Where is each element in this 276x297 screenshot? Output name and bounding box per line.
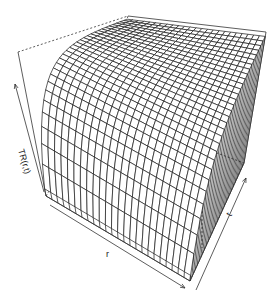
- perspective-surface-plot: TR(r,t) r t: [0, 0, 276, 297]
- x-axis-label: r: [106, 249, 109, 259]
- wireframe-surface: [42, 19, 266, 281]
- y-axis-label: t: [224, 210, 234, 218]
- z-axis-label: TR(r,t): [16, 148, 33, 175]
